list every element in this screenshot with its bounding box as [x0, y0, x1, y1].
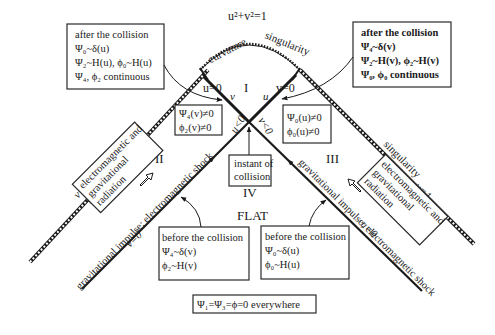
svg-text:Ψ₂~H(u), ϕ₀~H(u): Ψ₂~H(u), ϕ₀~H(u)	[75, 57, 152, 69]
left-after-collision-box: after the collision Ψ₀~δ(u) Ψ₂~H(u), ϕ₀~…	[67, 24, 222, 100]
right-before-collision-box: before the collision Ψ₀~δ(u) ϕ₀~H(u)	[261, 200, 349, 279]
left-radiation-arrow	[140, 173, 153, 186]
spacetime-diagram: u²+v²=1 curvature singularity I II III I…	[0, 0, 495, 335]
label-v-equals-0: v=0	[276, 81, 295, 95]
label-u-equals-0: u=0	[203, 81, 222, 95]
svg-text:Ψ₄(v)≠0: Ψ₄(v)≠0	[179, 108, 214, 120]
label-v-axis: v	[230, 90, 235, 102]
svg-text:Ψ₁=Ψ₃=ϕ=0 everywhere: Ψ₁=Ψ₃=ϕ=0 everywhere	[197, 299, 300, 310]
right-inner-box: Ψ₀(u)≠0 ϕ₀(u)≠0	[283, 105, 331, 143]
svg-text:Ψ₀(u)≠0: Ψ₀(u)≠0	[287, 112, 322, 124]
svg-text:collision: collision	[234, 171, 271, 182]
svg-text:instant of: instant of	[234, 158, 274, 169]
svg-text:after the collision: after the collision	[361, 27, 439, 38]
svg-text:before the collision: before the collision	[265, 231, 347, 242]
label-u-axis: u	[263, 90, 269, 102]
svg-text:Ψ₀~δ(u): Ψ₀~δ(u)	[265, 245, 300, 257]
left-before-collision-box: before the collision Ψ₄~δ(v) ϕ₂~H(v)	[159, 197, 249, 280]
svg-text:after the collision: after the collision	[75, 29, 149, 40]
svg-text:Ψ₂~H(v), ϕ₂~H(v): Ψ₂~H(v), ϕ₂~H(v)	[361, 55, 440, 67]
svg-text:Ψ₄, ϕ₂ continuous: Ψ₄, ϕ₂ continuous	[75, 71, 150, 82]
svg-text:Ψ₄~δ(v): Ψ₄~δ(v)	[162, 246, 197, 258]
svg-text:Ψ₄~δ(v): Ψ₄~δ(v)	[361, 41, 396, 53]
region-III: III	[326, 151, 339, 166]
svg-text:ϕ₂(v)≠0: ϕ₂(v)≠0	[179, 122, 211, 134]
svg-text:Ψ₀~δ(u): Ψ₀~δ(u)	[75, 43, 110, 55]
region-flat: FLAT	[237, 208, 268, 223]
right-after-collision-box: after the collision Ψ₄~δ(v) Ψ₂~H(v), ϕ₂~…	[282, 22, 451, 99]
svg-text:ϕ₀(u)≠0: ϕ₀(u)≠0	[287, 126, 319, 138]
svg-text:ϕ₀~H(u): ϕ₀~H(u)	[265, 259, 300, 271]
svg-text:Ψ₀, ϕ₀ continuous: Ψ₀, ϕ₀ continuous	[361, 69, 439, 80]
footer-box: Ψ₁=Ψ₃=ϕ=0 everywhere	[193, 295, 316, 313]
arc-label-curvature: curvature	[206, 35, 248, 65]
arc-label-singularity: singularity	[263, 29, 312, 58]
region-IV: IV	[243, 185, 257, 200]
region-I: I	[244, 80, 248, 95]
arc-equation: u²+v²=1	[228, 9, 267, 23]
left-inner-box: Ψ₄(v)≠0 ϕ₂(v)≠0	[175, 105, 222, 135]
svg-text:ϕ₂~H(v): ϕ₂~H(v)	[162, 260, 197, 272]
svg-text:before the collision: before the collision	[162, 232, 244, 243]
